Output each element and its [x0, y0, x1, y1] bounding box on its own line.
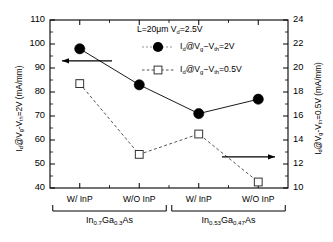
x-group-label: In0.53Ga0.47As: [169, 215, 289, 225]
y-tick-label-left: 70: [21, 110, 45, 120]
y-tick-label-left: 90: [21, 62, 45, 72]
y-tick-label-right: 16: [293, 110, 317, 120]
x-category-label: W/O InP: [218, 194, 298, 204]
y-tick-label-left: 80: [21, 86, 45, 96]
x-group-label: In0.7Ga0.3As: [50, 215, 170, 225]
legend-marker-open-square: [154, 66, 162, 74]
data-point-open-square: [254, 178, 262, 186]
chart-title: L=20μm Vd=2.5V: [137, 24, 203, 34]
y-tick-label-left: 40: [21, 182, 45, 192]
legend-item-label-1: Id@Vg−Vth=0.5V: [180, 64, 242, 74]
legend-item-label-0: Id@Vg−Vth=2V: [180, 41, 235, 51]
data-point-filled-circle: [75, 44, 85, 54]
y-tick-label-left: 100: [21, 38, 45, 48]
legend-marker-filled-circle: [153, 42, 163, 52]
data-point-open-square: [195, 130, 203, 138]
category-brackets: [53, 205, 286, 211]
legend-marks: [142, 42, 174, 74]
axis-ticks: [50, 20, 288, 188]
series-line-1: [80, 84, 259, 182]
series-line-0: [80, 49, 259, 114]
y-tick-label-right: 20: [293, 62, 317, 72]
data-point-open-square: [76, 80, 84, 88]
left-axis-arrow-head: [62, 58, 69, 63]
plot-area: [0, 0, 333, 242]
y-tick-label-right: 14: [293, 134, 317, 144]
right-axis-arrow-head: [268, 154, 275, 159]
y-tick-label-right: 22: [293, 38, 317, 48]
axis-arrows: [62, 58, 275, 159]
data-point-filled-circle: [134, 80, 144, 90]
y-tick-label-left: 110: [21, 14, 45, 24]
data-point-open-square: [135, 151, 143, 159]
plot-frame: [50, 20, 288, 188]
data-point-filled-circle: [253, 94, 263, 104]
y-tick-label-right: 18: [293, 86, 317, 96]
y-tick-label-left: 60: [21, 134, 45, 144]
plot-border: [50, 20, 288, 188]
y-tick-label-right: 12: [293, 158, 317, 168]
y-tick-label-right: 24: [293, 14, 317, 24]
y-tick-label-left: 50: [21, 158, 45, 168]
chart-figure: Id@Vg-Vth=2V (mA/mm) Id@Vg-Vth=0.5V (mA/…: [0, 0, 333, 242]
data-point-filled-circle: [194, 109, 204, 119]
y-tick-label-right: 10: [293, 182, 317, 192]
